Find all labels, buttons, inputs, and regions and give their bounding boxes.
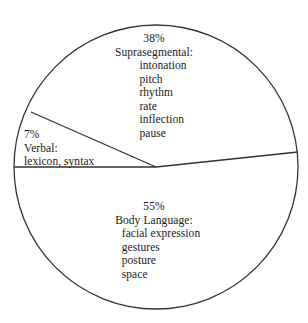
slice-percent-body-language: 55%: [0, 200, 308, 214]
slice-percent-verbal: 7%: [24, 128, 94, 142]
list-item: gestures: [122, 241, 200, 255]
slice-category-suprasegmental: Suprasegmental:: [0, 46, 308, 60]
list-item: lexicon, syntax: [24, 155, 94, 169]
list-item: inflection: [139, 113, 186, 127]
list-item: facial expression: [122, 227, 200, 241]
pie-chart-figure: 38% Suprasegmental: intonation pitch rhy…: [0, 0, 308, 323]
slice-label-body-language: 55% Body Language: facial expression ges…: [0, 200, 308, 283]
slice-label-verbal: 7% Verbal: lexicon, syntax: [24, 128, 94, 169]
slice-items-verbal: lexicon, syntax: [24, 155, 94, 169]
list-item: rhythm: [139, 86, 186, 100]
list-item: rate: [139, 100, 186, 114]
slice-label-suprasegmental: 38% Suprasegmental: intonation pitch rhy…: [0, 32, 308, 142]
list-item: intonation: [139, 59, 186, 73]
slice-items-suprasegmental: intonation pitch rhythm rate inflection …: [139, 59, 186, 140]
slice-percent-suprasegmental: 38%: [0, 32, 308, 46]
slice-category-verbal: Verbal:: [24, 142, 94, 156]
slice-items-body-language: facial expression gestures posture space: [122, 227, 200, 281]
list-item: posture: [122, 254, 200, 268]
list-item: pitch: [139, 73, 186, 87]
slice-category-body-language: Body Language:: [0, 214, 308, 228]
list-item: space: [122, 268, 200, 282]
list-item: pause: [139, 127, 186, 141]
